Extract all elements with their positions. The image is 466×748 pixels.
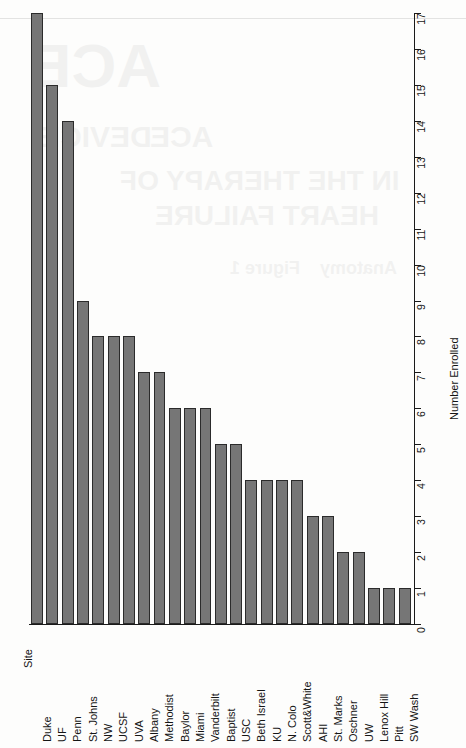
category-axis-line [29,624,415,625]
bar [62,121,74,624]
bar [353,552,365,624]
value-axis-tick-label: 7 [415,375,427,381]
bar [399,588,411,624]
bar [215,444,227,624]
bar [245,480,257,624]
value-axis-tick-label: 10 [415,265,427,277]
category-label: AHI [317,724,329,742]
value-axis-tick-label: 11 [415,229,427,240]
bar [368,588,380,624]
bar [154,372,166,624]
category-label: UVA [133,720,145,742]
value-axis-tick [415,408,421,409]
bar [169,408,181,624]
category-label: Pitt [393,726,405,742]
value-axis-tick-label: 12 [415,193,427,205]
category-label: St. Marks [332,696,344,742]
category-label: Miami [194,713,206,742]
bar [230,444,242,624]
category-label: St. Johns [87,696,99,742]
value-axis-tick-label: 16 [415,49,427,61]
category-label: Vanderbilt [209,693,221,742]
category-label: Baylor [179,711,191,742]
value-axis-tick-label: 9 [415,304,427,310]
value-axis-tick [415,336,421,337]
category-label: UF [56,727,68,742]
bar [322,516,334,624]
value-axis-tick-label: 15 [415,85,427,97]
bar [337,552,349,624]
value-axis-tick [415,480,421,481]
value-axis-tick [415,552,421,553]
category-label: Methodist [163,694,175,742]
category-label: UW [363,724,375,742]
bar [307,516,319,624]
value-axis-tick-label: 6 [415,411,427,417]
value-axis-tick [415,301,421,302]
category-label: USC [240,719,252,742]
value-axis-tick [415,444,421,445]
category-label: N. Colo [286,705,298,742]
value-axis-tick-label: 8 [415,340,427,346]
bar [261,480,273,624]
category-label: Oschner [347,700,359,742]
category-label: SW Wash [408,694,420,743]
value-axis-tick-label: 1 [415,591,427,597]
category-label: UCSF [117,712,129,742]
bar [77,301,89,624]
value-axis-tick [415,588,421,589]
value-axis-tick-label: 4 [415,483,427,489]
category-label: Scott&White [301,681,313,742]
value-axis-title: Number Enrolled [448,337,460,420]
bar [291,480,303,624]
bar [92,336,104,624]
bar [138,372,150,624]
category-label: Penn [71,716,83,742]
category-label: KU [271,727,283,742]
bar [383,588,395,624]
value-axis-tick [415,372,421,373]
value-axis-tick-label: 17 [415,13,427,25]
bar [31,13,43,624]
category-label: Albany [148,708,160,742]
value-axis-tick-label: 2 [415,555,427,561]
bar [276,480,288,624]
bar [46,85,58,624]
category-label: Duke [41,716,53,742]
value-axis-line [414,13,415,625]
bar [123,336,135,624]
value-axis-tick-label: 0 [415,627,427,633]
category-axis-title: Site [22,649,34,668]
value-axis-tick-label: 14 [415,121,427,133]
category-label: NW [102,724,114,742]
category-label: Baptist [225,708,237,742]
category-label: Lenox Hill [378,694,390,742]
value-axis-tick-label: 13 [415,157,427,169]
category-label: Beth Israel [255,689,267,742]
value-axis-tick-label: 5 [415,447,427,453]
bar [200,408,212,624]
value-axis-tick [415,516,421,517]
value-axis-tick-label: 3 [415,519,427,525]
bar [184,408,196,624]
bar [108,336,120,624]
bar-chart: 01234567891011121314151617 DukeUFPennSt.… [0,0,466,748]
value-axis-tick [415,624,421,625]
